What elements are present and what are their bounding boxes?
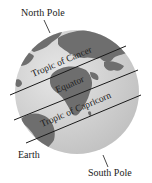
north-pole-pointer [44,20,50,33]
earth-label: Earth [18,149,40,160]
south-pole-pointer [103,155,108,167]
north-pole-label: North Pole [21,7,65,18]
south-pole-label: South Pole [88,167,132,178]
earth-diagram: North Pole Tropic of Cancer Equator Trop… [0,0,152,183]
